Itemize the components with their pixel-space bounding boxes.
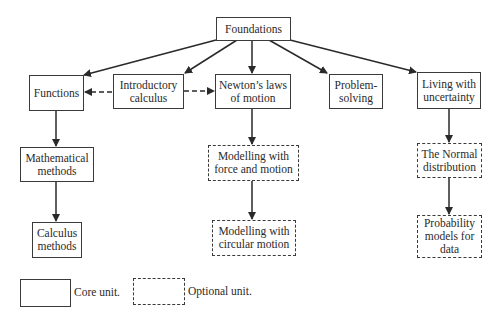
node-newtons-laws: Newton’s laws of motion: [215, 74, 291, 109]
node-mathematical-methods: Mathematical methods: [20, 147, 94, 182]
node-modelling-force-motion: Modelling with force and motion: [208, 145, 299, 181]
node-probability-models: Probability models for data: [417, 215, 482, 258]
arrow-foundations-living-uncertainty: [290, 40, 416, 72]
arrow-foundations-functions: [84, 40, 216, 75]
node-functions: Functions: [29, 75, 84, 111]
arrow-foundations-intro-calculus: [185, 40, 237, 73]
node-modelling-circular-motion: Modelling with circular motion: [212, 220, 296, 256]
legend-optional-label: Optional unit.: [188, 285, 252, 297]
arrow-foundations-problem-solving: [269, 40, 327, 73]
node-living-with-uncertainty: Living with uncertainty: [417, 72, 481, 109]
node-introductory-calculus: Introductory calculus: [113, 74, 184, 109]
node-problem-solving: Problem-solving: [329, 74, 383, 109]
node-calculus-methods: Calculus methods: [32, 222, 82, 258]
node-normal-distribution: The Normal distribution: [417, 143, 482, 178]
legend-optional-swatch: [133, 278, 185, 305]
legend-core-swatch: [20, 279, 71, 307]
legend-core-label: Core unit.: [74, 286, 120, 298]
node-foundations: Foundations: [216, 17, 291, 41]
